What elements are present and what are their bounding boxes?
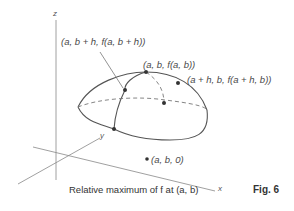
dashed-ellipse-back [78, 98, 207, 110]
point-x-direction [176, 81, 180, 85]
point-boundary [112, 127, 116, 131]
label-x-direction-point: (a + h, b, f(a + h, b)) [187, 74, 271, 85]
y-section-curve [114, 72, 146, 129]
point-top [144, 70, 148, 74]
figure-label: Fig. 6 [253, 184, 279, 195]
point-base [145, 157, 149, 161]
label-base-point: (a, b, 0) [151, 154, 184, 165]
bottom-boundary [78, 107, 207, 140]
point-center [162, 101, 166, 105]
x-axis-label: x [218, 184, 222, 193]
surface-diagram [0, 0, 294, 211]
label-y-direction-point: (a, b + h, f(a, b + h)) [61, 36, 145, 47]
points [112, 70, 180, 161]
label-top-point: (a, b, f(a, b)) [143, 59, 195, 70]
z-axis-label: z [53, 9, 57, 18]
y-axis [18, 138, 100, 184]
point-y-direction [123, 88, 127, 92]
y-axis-label: y [100, 131, 104, 140]
figure-caption: Relative maximum of f at (a, b) [69, 184, 198, 195]
